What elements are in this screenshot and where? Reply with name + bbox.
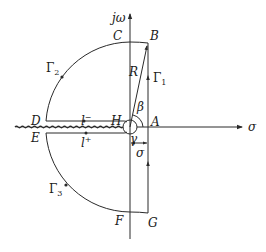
gamma1-label: Γ1 (153, 71, 166, 87)
gamma1-arrow-icon (146, 75, 150, 80)
point-label-g: G (148, 216, 158, 230)
contour-diagram: jω σ C B D E H A F G R β γ σ Γ1 Γ2 Γ3 l−… (0, 0, 266, 252)
radius-label: R (128, 65, 138, 79)
jomega-axis-label: jω (109, 11, 126, 25)
point-label-c: C (113, 29, 122, 43)
radius-line (130, 46, 147, 127)
sigma-offset-right-arrow-icon (143, 142, 147, 145)
gamma3-arrow-icon (64, 183, 67, 186)
gamma2-label: Γ2 (46, 61, 59, 77)
point-label-e: E (30, 131, 40, 145)
point-label-b: B (149, 29, 159, 43)
gamma2-arrow-icon (60, 75, 63, 78)
lower-segment-arrow-icon (146, 161, 150, 166)
beta-label: β (136, 100, 144, 114)
gamma2-arc (46, 42, 148, 121)
sigma-offset-label: σ (136, 146, 145, 160)
point-label-h: H (110, 114, 122, 128)
point-label-d: D (30, 114, 41, 128)
gamma3-label: Γ3 (49, 182, 62, 198)
l-plus-label: l+ (81, 135, 92, 150)
l-minus-label: l− (81, 113, 92, 128)
point-label-f: F (114, 214, 124, 228)
gamma-angle-label: γ (130, 132, 138, 146)
point-label-a: A (150, 115, 160, 129)
sigma-axis-label: σ (248, 120, 257, 134)
